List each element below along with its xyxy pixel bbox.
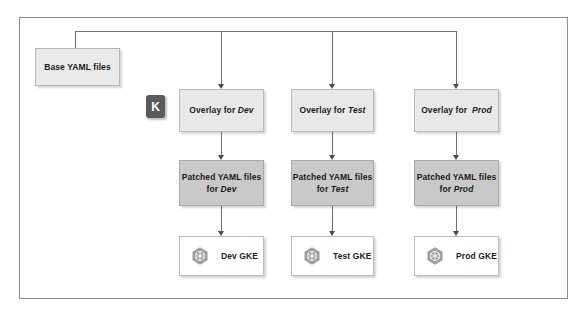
connector-horizontal-bus (75, 31, 456, 32)
node-patched-yaml-test-label: Patched YAML filesfor Test (293, 171, 373, 196)
connector-bus-to-overlay-test (332, 31, 333, 84)
patched-dev-line1: Patched YAML files (182, 172, 262, 182)
connector-bus-to-overlay-dev (221, 31, 222, 84)
node-base-yaml-files-label: Base YAML files (44, 61, 111, 73)
node-patched-yaml-prod[interactable]: Patched YAML filesfor Prod (414, 160, 499, 206)
kubernetes-hexagon-icon (190, 246, 210, 266)
node-cluster-prod-gke[interactable]: Prod GKE (414, 236, 499, 276)
diagram-canvas: Base YAML files K Overlay for Dev Overla… (0, 0, 587, 315)
node-base-yaml-files[interactable]: Base YAML files (35, 48, 120, 86)
connector-overlay-to-patched-prod (456, 132, 457, 155)
overlay-test-prefix: Overlay for (299, 105, 347, 115)
node-cluster-test-gke-label: Test GKE (333, 250, 371, 262)
node-cluster-dev-gke[interactable]: Dev GKE (179, 236, 264, 276)
patched-prod-line1: Patched YAML files (417, 172, 497, 182)
patched-test-env: Test (331, 184, 349, 194)
kubernetes-hexagon-icon (425, 246, 445, 266)
kubernetes-hexagon-icon (302, 246, 322, 266)
connector-patched-to-cluster-dev (221, 206, 222, 231)
node-cluster-dev-gke-label: Dev GKE (221, 250, 258, 262)
connector-bus-to-overlay-prod (456, 31, 457, 84)
node-overlay-test[interactable]: Overlay for Test (291, 89, 374, 132)
overlay-dev-prefix: Overlay for (189, 105, 237, 115)
patched-test-line1: Patched YAML files (293, 172, 373, 182)
node-overlay-dev-label: Overlay for Dev (189, 104, 253, 116)
connector-overlay-to-patched-test (332, 132, 333, 155)
connector-patched-to-cluster-prod (456, 206, 457, 231)
node-patched-yaml-dev[interactable]: Patched YAML filesfor Dev (179, 160, 264, 206)
patched-dev-env: Dev (221, 184, 237, 194)
overlay-dev-env: Dev (238, 105, 254, 115)
node-overlay-prod[interactable]: Overlay for Prod (414, 89, 499, 132)
patched-prod-prefix: for (440, 184, 454, 194)
kustomize-k-icon: K (146, 95, 165, 118)
node-patched-yaml-test[interactable]: Patched YAML filesfor Test (291, 160, 374, 206)
connector-overlay-to-patched-dev (221, 132, 222, 155)
patched-prod-env: Prod (454, 184, 474, 194)
overlay-prod-prefix: Overlay for (421, 105, 469, 115)
node-patched-yaml-dev-label: Patched YAML filesfor Dev (182, 171, 262, 196)
patched-dev-prefix: for (207, 184, 221, 194)
kustomize-k-letter: K (151, 100, 160, 114)
node-cluster-test-gke[interactable]: Test GKE (291, 236, 374, 276)
node-overlay-test-label: Overlay for Test (299, 104, 365, 116)
connector-patched-to-cluster-test (332, 206, 333, 231)
overlay-prod-env: Prod (472, 105, 492, 115)
node-overlay-prod-label: Overlay for Prod (421, 104, 492, 116)
patched-test-prefix: for (317, 184, 331, 194)
node-overlay-dev[interactable]: Overlay for Dev (179, 89, 264, 132)
node-cluster-prod-gke-label: Prod GKE (456, 250, 497, 262)
connector-base-riser (75, 31, 76, 49)
node-patched-yaml-prod-label: Patched YAML filesfor Prod (417, 171, 497, 196)
overlay-test-env: Test (348, 105, 366, 115)
